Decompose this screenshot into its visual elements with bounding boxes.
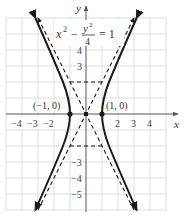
vertex-left-label: (−1, 0) — [33, 100, 60, 112]
svg-text:−2: −2 — [43, 118, 54, 129]
svg-text:−3: −3 — [71, 157, 82, 168]
y-axis-label: y — [75, 2, 81, 14]
svg-text:4: 4 — [147, 118, 152, 129]
svg-text:−4: −4 — [11, 118, 22, 129]
x-axis-label: x — [173, 118, 179, 130]
svg-text:−: − — [71, 27, 78, 41]
equation-label: x 2 − y 2 4 = 1 — [54, 20, 124, 47]
svg-text:y: y — [82, 22, 88, 34]
svg-text:3: 3 — [131, 118, 136, 129]
x-tick-labels: −4 −3 −2 2 3 4 — [10, 117, 152, 129]
svg-text:2: 2 — [115, 118, 120, 129]
y-tick-labels: 4 3 −3 −4 −5 — [71, 45, 82, 200]
vertex-right-label: (1, 0) — [106, 100, 128, 112]
vertex-right-point — [99, 111, 104, 116]
svg-text:4: 4 — [85, 36, 90, 47]
hyperbola-graph: x 2 − y 2 4 = 1 y x (−1, 0) (1, 0) −4 −3… — [0, 0, 185, 220]
vertex-left-point — [67, 111, 72, 116]
svg-text:2: 2 — [63, 25, 67, 34]
svg-text:= 1: = 1 — [99, 27, 115, 41]
svg-text:−5: −5 — [71, 189, 82, 200]
svg-text:−4: −4 — [71, 173, 82, 184]
svg-text:2: 2 — [89, 21, 93, 29]
center-point — [84, 112, 88, 116]
svg-text:−3: −3 — [27, 118, 38, 129]
svg-text:3: 3 — [77, 61, 82, 72]
svg-text:4: 4 — [77, 45, 82, 56]
svg-text:x: x — [55, 27, 62, 41]
